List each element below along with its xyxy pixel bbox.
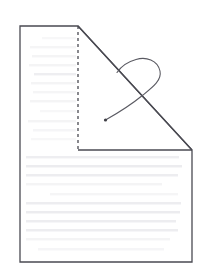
text-line-upper-6 bbox=[33, 91, 76, 93]
text-line-upper-8 bbox=[40, 110, 76, 112]
text-line-upper-5 bbox=[31, 82, 76, 84]
text-line-lower-8 bbox=[26, 229, 178, 232]
text-line-lower-5 bbox=[26, 202, 181, 205]
text-line-lower-1 bbox=[26, 165, 182, 168]
text-line-upper-10 bbox=[33, 129, 76, 131]
text-line-upper-2 bbox=[32, 55, 76, 57]
text-line-lower-9 bbox=[26, 238, 170, 240]
text-line-lower-4 bbox=[50, 193, 178, 195]
page-surface bbox=[20, 26, 192, 262]
text-line-upper-3 bbox=[29, 64, 76, 66]
text-line-lower-7 bbox=[26, 220, 176, 223]
text-line-lower-10 bbox=[38, 248, 164, 250]
text-line-upper-7 bbox=[30, 100, 76, 102]
text-line-upper-0 bbox=[42, 37, 76, 39]
text-line-lower-6 bbox=[26, 211, 180, 214]
text-line-lower-0 bbox=[26, 156, 179, 158]
text-line-upper-11 bbox=[31, 138, 76, 140]
pen-stroke-endpoint-dot bbox=[104, 118, 107, 121]
text-line-upper-1 bbox=[30, 46, 76, 48]
folded-document-illustration bbox=[0, 0, 214, 277]
text-line-lower-2 bbox=[26, 174, 178, 177]
text-line-upper-9 bbox=[28, 120, 76, 122]
text-line-upper-4 bbox=[34, 73, 76, 75]
document-icon-canvas: Folded page with handwritten annotation … bbox=[0, 0, 214, 277]
text-line-lower-3 bbox=[26, 183, 162, 185]
